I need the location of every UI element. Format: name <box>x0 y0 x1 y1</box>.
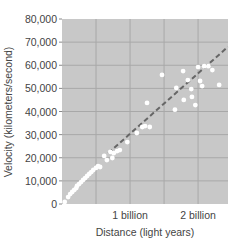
data-point <box>196 65 201 70</box>
data-point <box>217 83 222 88</box>
data-point <box>102 154 107 159</box>
y-tick-label: 80,000 <box>25 13 57 25</box>
data-point <box>210 68 215 73</box>
data-point <box>174 86 179 91</box>
y-tick-label: 60,000 <box>25 59 57 71</box>
x-tick-label: 2 billion <box>180 209 216 221</box>
data-point <box>202 64 207 69</box>
x-axis-title: Distance (light years) <box>96 226 195 238</box>
data-point <box>98 165 103 170</box>
data-point <box>185 78 190 83</box>
data-point <box>198 79 203 84</box>
data-point <box>181 69 186 74</box>
data-point <box>193 103 198 108</box>
data-point <box>206 64 211 69</box>
y-tick-label: 20,000 <box>25 152 57 164</box>
hubble-scatter-chart: 010,00020,00030,00040,00050,00060,00070,… <box>0 0 241 245</box>
data-point <box>160 73 165 78</box>
data-point <box>190 95 195 100</box>
data-point <box>145 101 150 106</box>
y-tick-label: 30,000 <box>25 129 57 141</box>
data-point <box>143 124 148 129</box>
y-axis-title: Velocity (kilometers/second) <box>2 47 14 178</box>
x-tick-label: 1 billion <box>112 209 148 221</box>
data-point <box>110 156 115 161</box>
data-point <box>181 98 186 103</box>
data-point <box>105 158 110 163</box>
data-point <box>62 200 67 205</box>
y-tick-label: 70,000 <box>25 36 57 48</box>
y-tick-label: 40,000 <box>25 106 57 118</box>
data-point <box>173 107 178 112</box>
y-tick-label: 10,000 <box>25 175 57 187</box>
y-tick-label: 50,000 <box>25 82 57 94</box>
y-tick-label: 0 <box>51 198 57 210</box>
data-point <box>147 125 152 130</box>
data-point <box>125 140 130 145</box>
data-point <box>200 84 205 89</box>
data-point <box>134 131 139 136</box>
data-point <box>117 148 122 153</box>
data-point <box>189 87 194 92</box>
y-axis-ticks: 010,00020,00030,00040,00050,00060,00070,… <box>25 13 62 210</box>
x-axis-ticks: 1 billion2 billion <box>112 209 216 221</box>
